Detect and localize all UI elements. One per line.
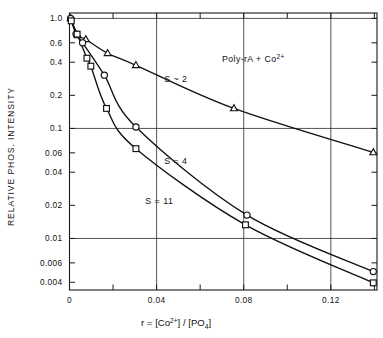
data-point-square (84, 55, 90, 61)
y-tick-label: 0.1 (50, 123, 63, 133)
y-tick-label: 0.6 (50, 38, 63, 48)
y-tick-labels: 1.00.60.40.20.10.060.040.020.010.0060.00… (40, 13, 63, 287)
data-point-circle (79, 40, 85, 46)
data-point-circle (244, 212, 250, 218)
series-label-1: S ~ 2 (164, 74, 187, 84)
data-point-square (104, 106, 110, 112)
x-tick-labels: 00.040.080.12 (67, 295, 340, 305)
x-tick-label: 0.08 (235, 295, 253, 305)
x-tick-label: 0.04 (148, 295, 166, 305)
y-tick-label: 0.01 (45, 233, 63, 243)
data-point-square (133, 146, 139, 152)
sample-annotation: Poly-rA + Co2+ (222, 53, 285, 64)
data-point-square (243, 222, 249, 228)
x-tick-label: 0.12 (322, 295, 340, 305)
y-tick-label: 1.0 (50, 13, 63, 23)
y-tick-label: 0.04 (45, 167, 63, 177)
data-point-square (68, 18, 74, 24)
x-tick-label: 0 (67, 295, 72, 305)
y-axis-title: RELATIVE PHOS. INTENSITY (6, 87, 16, 226)
data-point-square (74, 31, 80, 37)
series-label-3: S = 11 (145, 196, 173, 206)
y-tick-label: 0.2 (50, 90, 63, 100)
data-point-circle (133, 124, 139, 130)
y-tick-label: 0.004 (40, 277, 63, 287)
phosphorescence-quenching-figure: 1.00.60.40.20.10.060.040.020.010.0060.00… (0, 0, 383, 338)
y-tick-label: 0.06 (45, 148, 63, 158)
series-label-2: S = 4 (164, 156, 187, 166)
data-point-circle (101, 72, 107, 78)
series-curve-1 (71, 18, 374, 152)
y-tick-label: 0.006 (40, 258, 63, 268)
x-axis-title: r = [Co2+] / [PO4] (141, 317, 211, 330)
data-point-square (370, 280, 376, 286)
data-point-square (88, 63, 94, 69)
y-tick-label: 0.02 (45, 200, 63, 210)
chart-canvas: 1.00.60.40.20.10.060.040.020.010.0060.00… (0, 0, 383, 338)
y-tick-label: 0.4 (50, 57, 63, 67)
data-point-circle (370, 268, 376, 274)
series-inline-labels: S ~ 2S = 4S = 11 (145, 74, 187, 206)
